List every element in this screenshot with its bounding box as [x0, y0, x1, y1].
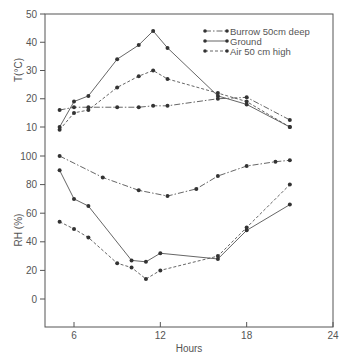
data-point [166, 194, 170, 198]
data-point [72, 227, 76, 231]
data-point [144, 260, 148, 264]
relative-humidity-line-dash-dot [60, 156, 290, 196]
data-point [130, 266, 134, 270]
data-point [166, 77, 170, 81]
data-point [245, 95, 249, 99]
data-point [144, 277, 148, 281]
legend-marker [225, 39, 229, 43]
data-point [194, 187, 198, 191]
data-point [273, 160, 277, 164]
data-point [137, 43, 141, 47]
data-point [115, 57, 119, 61]
data-point [115, 105, 119, 109]
legend-marker [203, 39, 207, 43]
data-point [151, 29, 155, 33]
y-tick-label: 50 [26, 9, 38, 20]
y-tick-label: 40 [26, 37, 38, 48]
legend-marker [203, 29, 207, 33]
data-point [245, 100, 249, 104]
y-tick-label: 100 [20, 151, 37, 162]
y-tick-label: 60 [26, 208, 38, 219]
data-point [288, 118, 292, 122]
legend-marker [203, 49, 207, 53]
data-point [158, 251, 162, 255]
data-point [115, 261, 119, 265]
data-point [86, 204, 90, 208]
data-point [130, 258, 134, 262]
data-point [137, 188, 141, 192]
data-point [86, 108, 90, 112]
axes: 61218241020304050020406080100 [20, 9, 339, 342]
x-axis-label: Hours [176, 343, 203, 354]
data-point [288, 203, 292, 207]
data-point [72, 197, 76, 201]
data-point [58, 168, 62, 172]
x-tick-label: 18 [241, 330, 253, 341]
data-point [288, 125, 292, 129]
y-tick-label: 80 [26, 179, 38, 190]
data-point [72, 111, 76, 115]
y-axis-label-temperature: T(°C) [13, 58, 24, 82]
legend-marker [225, 49, 229, 53]
data-point [245, 164, 249, 168]
data-point [58, 128, 62, 132]
data-point [72, 105, 76, 109]
y-tick-label: 40 [26, 236, 38, 247]
y-tick-label: 0 [31, 294, 37, 305]
data-point [86, 236, 90, 240]
x-tick-label: 12 [155, 330, 167, 341]
y-tick-label: 20 [26, 93, 38, 104]
data-point [72, 100, 76, 104]
data-point [166, 46, 170, 50]
data-point [58, 220, 62, 224]
data-point [86, 94, 90, 98]
relative-humidity-line-solid [60, 170, 290, 262]
data-point [158, 268, 162, 272]
data-point [288, 183, 292, 187]
data-point [115, 85, 119, 89]
temperature-line-dashed [60, 71, 290, 130]
data-point [58, 108, 62, 112]
y-axis-label-humidity: RH (%) [13, 214, 24, 247]
data-point [151, 69, 155, 73]
data-point [137, 105, 141, 109]
relative-humidity-line-dashed [60, 185, 290, 279]
data-point [137, 74, 141, 78]
chart: 61218241020304050020406080100 Burrow 50c… [0, 0, 349, 361]
data-point [58, 154, 62, 158]
y-tick-label: 10 [26, 122, 38, 133]
legend: Burrow 50cm deepGroundAir 50 cm high [203, 26, 310, 57]
legend-marker [225, 29, 229, 33]
x-tick-label: 6 [71, 330, 77, 341]
data-point [216, 91, 220, 95]
data-point [216, 174, 220, 178]
data-point [288, 158, 292, 162]
legend-label: Air 50 cm high [230, 46, 291, 57]
data-point [245, 226, 249, 230]
y-tick-label: 30 [26, 65, 38, 76]
data-point [166, 104, 170, 108]
x-tick-label: 24 [327, 330, 339, 341]
data-point [101, 175, 105, 179]
y-tick-label: 20 [26, 265, 38, 276]
series-layer [58, 29, 292, 281]
data-point [151, 104, 155, 108]
data-point [216, 254, 220, 258]
